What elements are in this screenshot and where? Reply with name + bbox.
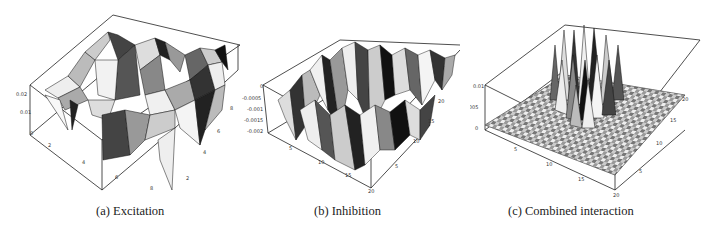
z-tick: 0	[30, 130, 33, 136]
z-tick: -0.001	[247, 106, 263, 112]
x-tick: 10	[318, 159, 324, 165]
panel-inhibition: 0 -0.0005 -0.001 -0.0015 -0.002 5 10 15 …	[230, 0, 460, 235]
y-tick: 5	[639, 168, 642, 174]
y-tick: 4	[203, 149, 206, 155]
z-tick: 0	[475, 125, 478, 131]
surface-plot-combined-interaction: 0.01 0.005 0 5 10 15 20 5 10 15 20	[470, 0, 703, 200]
surface-plot-excitation: 0.02 0.01 0 2 4 6 8 2 4 6 8	[0, 0, 240, 200]
x-tick: 20	[613, 192, 619, 198]
z-tick: -0.002	[247, 128, 263, 134]
x-tick: 6	[115, 174, 118, 180]
x-tick: 8	[150, 185, 153, 191]
x-tick: 20	[368, 188, 374, 194]
z-tick: 0.005	[470, 104, 478, 110]
y-tick: 20	[682, 96, 688, 102]
x-tick: 15	[345, 172, 351, 178]
surface-plot-inhibition: 0 -0.0005 -0.001 -0.0015 -0.002 5 10 15 …	[230, 0, 460, 200]
caption-excitation: (a) Excitation	[96, 204, 164, 219]
x-tick: 5	[514, 146, 517, 152]
x-tick: 15	[578, 176, 584, 182]
y-tick: 6	[217, 128, 220, 134]
x-tick: 4	[82, 159, 85, 165]
y-tick: 15	[670, 117, 676, 123]
z-tick: -0.0005	[242, 95, 261, 101]
z-tick: 0.02	[16, 91, 27, 97]
x-tick: 5	[289, 145, 292, 151]
panel-combined-interaction: 0.01 0.005 0 5 10 15 20 5 10 15 20 (c) C…	[470, 0, 703, 235]
y-tick: 15	[428, 118, 434, 124]
panel-excitation: 0.02 0.01 0 2 4 6 8 2 4 6 8 (a) Excitati…	[0, 0, 240, 235]
z-tick: 0.01	[20, 109, 31, 115]
y-tick: 2	[186, 175, 189, 181]
x-tick: 2	[48, 142, 51, 148]
y-tick: 20	[438, 98, 444, 104]
z-tick: 0.01	[473, 83, 484, 89]
y-tick: 10	[413, 138, 419, 144]
y-tick: 5	[395, 163, 398, 169]
y-tick: 10	[656, 140, 662, 146]
x-tick: 10	[546, 161, 552, 167]
caption-combined-interaction: (c) Combined interaction	[508, 204, 634, 219]
z-tick: 0	[260, 83, 263, 89]
caption-inhibition: (b) Inhibition	[314, 204, 381, 219]
z-tick: -0.0015	[244, 117, 263, 123]
